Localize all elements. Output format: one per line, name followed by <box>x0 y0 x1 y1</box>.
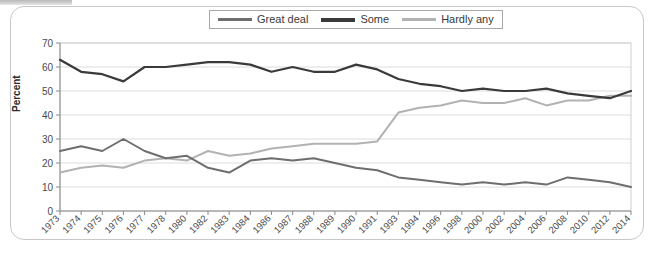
legend-label-hardly-any: Hardly any <box>441 14 494 25</box>
x-tick-label: 1980 <box>166 213 189 236</box>
legend-label-some: Some <box>360 14 389 25</box>
series-line-hardly-any <box>60 96 631 173</box>
x-tick-label: 2014 <box>610 213 633 236</box>
x-tick-label: 1975 <box>81 213 104 236</box>
x-tick-label: 1977 <box>123 213 146 236</box>
x-tick-label: 2008 <box>546 213 569 236</box>
series-line-some <box>60 60 631 98</box>
x-tick-label: 1994 <box>398 213 421 236</box>
x-tick-label: 2012 <box>589 213 612 236</box>
x-tick-label: 1984 <box>229 213 252 236</box>
x-tick-label: 2004 <box>504 213 527 236</box>
x-tick-label: 1973 <box>39 213 62 236</box>
legend-swatch-hardly-any <box>402 18 436 21</box>
x-tick-label: 1991 <box>356 213 379 236</box>
x-tick-label: 1974 <box>60 213 83 236</box>
x-tick-label: 1989 <box>314 213 337 236</box>
x-tick-label: 1998 <box>441 213 464 236</box>
legend-swatch-great-deal <box>218 18 252 21</box>
x-tick-label: 1988 <box>292 213 315 236</box>
y-tick-label: 20 <box>42 158 54 169</box>
y-tick-label: 70 <box>42 38 54 49</box>
legend-item-some: Some <box>321 14 389 25</box>
chart-page: Great deal Some Hardly any Percent 01020… <box>0 0 657 253</box>
x-tick-label: 1990 <box>335 213 358 236</box>
x-tick-label: 2000 <box>462 213 485 236</box>
x-tick-label: 1983 <box>208 213 231 236</box>
x-tick-label: 1982 <box>187 213 210 236</box>
x-tick-label: 2002 <box>483 213 506 236</box>
y-tick-label: 10 <box>42 182 54 193</box>
x-tick-label: 2006 <box>525 213 548 236</box>
y-tick-label: 50 <box>42 86 54 97</box>
x-tick-label: 1996 <box>419 213 442 236</box>
x-tick-label: 2010 <box>567 213 590 236</box>
plot-area: 0102030405060701973197419751976197719781… <box>0 0 657 253</box>
legend-label-great-deal: Great deal <box>257 14 308 25</box>
chart-legend: Great deal Some Hardly any <box>209 10 503 29</box>
y-tick-label: 60 <box>42 62 54 73</box>
x-tick-label: 1987 <box>271 213 294 236</box>
chart-svg: 0102030405060701973197419751976197719781… <box>0 0 657 253</box>
y-tick-label: 30 <box>42 134 54 145</box>
legend-item-hardly-any: Hardly any <box>402 14 494 25</box>
x-tick-label: 1993 <box>377 213 400 236</box>
legend-item-great-deal: Great deal <box>218 14 308 25</box>
x-tick-label: 1976 <box>102 213 125 236</box>
x-tick-label: 1986 <box>250 213 273 236</box>
y-tick-label: 40 <box>42 110 54 121</box>
x-tick-label: 1978 <box>144 213 167 236</box>
legend-swatch-some <box>321 18 355 22</box>
